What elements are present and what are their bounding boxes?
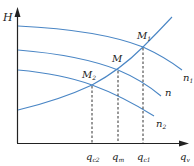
svg-text:n2: n2 xyxy=(156,118,166,130)
svg-text:qc2: qc2 xyxy=(86,151,100,163)
y-axis-arrow-icon xyxy=(15,7,21,17)
x-tick-qm: qm xyxy=(112,151,124,163)
y-axis-label: H xyxy=(2,11,13,24)
svg-text:qm: qm xyxy=(112,151,124,163)
svg-text:M1: M1 xyxy=(136,30,151,42)
svg-text:qv: qv xyxy=(180,151,190,163)
svg-text:M: M xyxy=(111,53,123,64)
svg-text:M2: M2 xyxy=(81,69,96,81)
svg-text:n: n xyxy=(165,87,171,98)
point-label-M1: M1 xyxy=(136,30,151,42)
svg-text:qc1: qc1 xyxy=(137,151,151,163)
curve-label-n: n xyxy=(165,87,171,98)
x-tick-qc1: qc1 xyxy=(137,151,151,163)
pump-characteristic-diagram: H qv n1 n n2 M1 M M2 qc2 qm qc1 xyxy=(0,0,194,166)
curve-label-n2: n2 xyxy=(156,118,166,130)
point-label-M: M xyxy=(111,53,123,64)
curve-label-n1: n1 xyxy=(183,72,193,84)
svg-text:n1: n1 xyxy=(183,72,193,84)
point-label-M2: M2 xyxy=(81,69,96,81)
system-curve xyxy=(18,17,172,110)
pump-curves xyxy=(18,17,182,116)
x-tick-qc2: qc2 xyxy=(86,151,100,163)
x-axis-arrow-icon xyxy=(179,141,189,147)
x-axis-label: qv xyxy=(180,151,190,163)
